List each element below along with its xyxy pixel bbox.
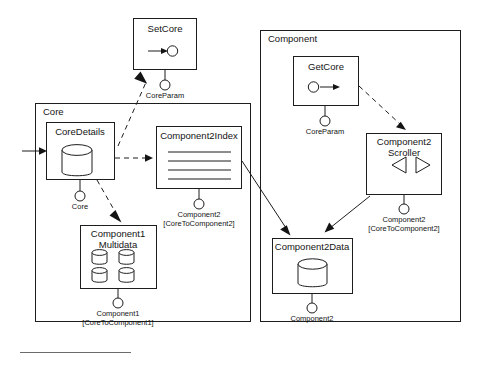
component-label-coredetails: CoreDetails [55,127,105,138]
database-cylinder-icon-coredetails [62,145,92,176]
interface-label-setcore-coreparam: CoreParam [146,92,184,100]
interface-lollipop-multidata-component1 [113,289,123,309]
component-label-getcore: GetCore [308,62,344,73]
component-label-setcore: SetCore [148,24,183,35]
component-label-component2index: Component2Index [160,131,238,142]
connector-index-to-data [242,161,291,236]
component-diagram: Core Component SetCore GetCore CoreDetai… [0,0,479,367]
package-label-component: Component [268,34,317,45]
connector-coredetails-to-index [115,154,153,162]
interface-label-index-component2-qualifier: [CoreToComponent2] [163,220,234,228]
component-label-component2scroller-line2: Scroller [388,148,420,159]
interface-label-multidata-component1-qualifier: [CoreToComponent1] [82,319,153,327]
interface-lollipop-scroller-component2 [399,195,409,215]
interface-lollipop-coredetails-core [75,180,85,202]
database-cylinder-icon-component2data [298,259,327,287]
interface-label-getcore-coreparam: CoreParam [306,128,344,136]
package-label-core: Core [43,107,64,118]
interface-lollipop-index-component2 [194,189,204,210]
diagram-canvas [0,0,479,367]
component-label-component2data: Component2Data [275,242,349,253]
interface-lollipop-getcore-coreparam [320,106,330,127]
interface-label-scroller-component2-qualifier: [CoreToComponent2] [368,225,439,233]
component-label-component1multidata-line2: Multidata [99,240,138,251]
interface-lollipop-data-component2 [307,294,317,314]
interface-label-coredetails-core: Core [72,203,88,211]
connector-getcore-to-scroller [359,86,406,130]
interface-lollipop-setcore-coreparam [160,70,170,91]
connector-scroller-to-data [325,196,371,233]
connector-coredetails-to-setcore [118,72,147,147]
connector-coredetails-to-multidata [97,180,122,223]
connector-external-to-coredetails [22,147,47,155]
interface-label-data-component2: Component2 [291,315,334,323]
